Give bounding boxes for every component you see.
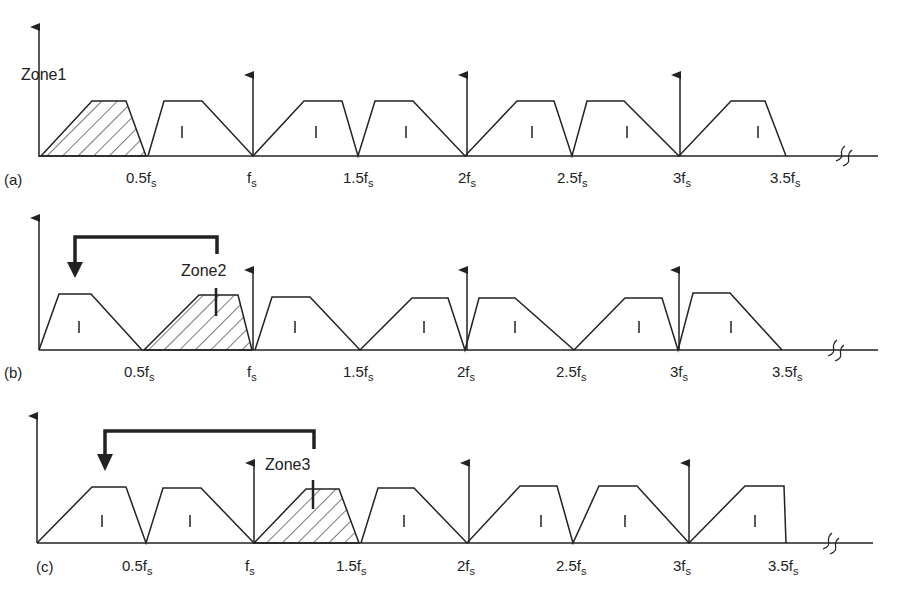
signal-spectrum — [254, 489, 359, 543]
image-markers — [182, 126, 758, 138]
panel-c — [37, 416, 873, 554]
panel-c-label: (c) — [36, 558, 54, 575]
svg-text:2fs: 2fs — [458, 169, 477, 189]
svg-text:fs: fs — [247, 363, 257, 383]
svg-text:fs: fs — [247, 169, 257, 189]
svg-text:2.5fs: 2.5fs — [556, 363, 587, 383]
image-spectrum — [39, 294, 142, 350]
zone3-label: Zone3 — [265, 456, 310, 473]
svg-text:1.5fs: 1.5fs — [336, 557, 367, 577]
panel-a-ticks: 0.5fs fs 1.5fs 2fs 2.5fs 3fs 3.5fs — [126, 169, 801, 189]
image-spectrum — [255, 293, 782, 350]
fold-bracket-arrow — [105, 431, 314, 454]
svg-text:3fs: 3fs — [673, 169, 692, 189]
svg-text:2fs: 2fs — [457, 363, 476, 383]
fold-arrowhead — [67, 262, 83, 278]
svg-text:3fs: 3fs — [673, 557, 692, 577]
image-markers — [102, 515, 755, 527]
signal-spectrum — [41, 101, 146, 156]
panel-c-ticks: 0.5fs fs 1.5fs 2fs 2.5fs 3fs 3.5fs — [122, 557, 799, 577]
signal-spectrum — [144, 295, 252, 350]
svg-text:0.5fs: 0.5fs — [126, 169, 157, 189]
image-spectrum — [37, 487, 254, 543]
svg-text:1.5fs: 1.5fs — [343, 169, 374, 189]
fold-arrowhead — [97, 454, 113, 471]
svg-text:fs: fs — [245, 557, 255, 577]
svg-text:3fs: 3fs — [670, 363, 689, 383]
panel-a — [39, 27, 878, 166]
panel-b-label: (b) — [4, 364, 22, 381]
panel-b — [39, 218, 878, 361]
svg-text:0.5fs: 0.5fs — [124, 363, 155, 383]
svg-text:3.5fs: 3.5fs — [768, 557, 799, 577]
svg-text:1.5fs: 1.5fs — [343, 363, 374, 383]
zone1-label: Zone1 — [21, 66, 66, 83]
svg-text:2.5fs: 2.5fs — [557, 169, 588, 189]
svg-text:2.5fs: 2.5fs — [556, 557, 587, 577]
nyquist-zones-diagram: Zone1 (a) 0.5fs fs 1.5fs 2fs 2.5fs 3fs 3… — [0, 0, 906, 612]
panel-b-ticks: 0.5fs fs 1.5fs 2fs 2.5fs 3fs 3.5fs — [124, 363, 803, 383]
panel-a-label: (a) — [4, 171, 22, 188]
fold-bracket-arrow — [75, 237, 217, 262]
svg-text:3.5fs: 3.5fs — [770, 169, 801, 189]
zone2-label: Zone2 — [181, 262, 226, 279]
svg-text:2fs: 2fs — [457, 557, 476, 577]
svg-text:3.5fs: 3.5fs — [772, 363, 803, 383]
image-spectrum — [361, 486, 786, 543]
svg-text:0.5fs: 0.5fs — [122, 557, 153, 577]
